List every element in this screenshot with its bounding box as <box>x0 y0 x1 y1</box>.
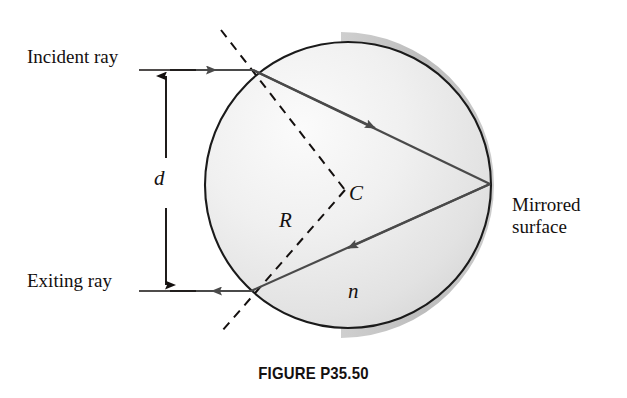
distance-d-label: d <box>154 166 165 191</box>
figure-caption: FIGURE P35.50 <box>38 364 590 384</box>
figure-container: Incident ray Exiting ray Mirrored surfac… <box>0 0 627 398</box>
incident-ray-label: Incident ray <box>27 46 118 68</box>
center-c-label: C <box>349 181 363 206</box>
refractive-index-n-label: n <box>348 279 359 304</box>
radius-r-label: R <box>279 208 292 233</box>
exiting-ray-label: Exiting ray <box>27 270 112 292</box>
mirrored-surface-label: Mirrored surface <box>512 194 622 239</box>
